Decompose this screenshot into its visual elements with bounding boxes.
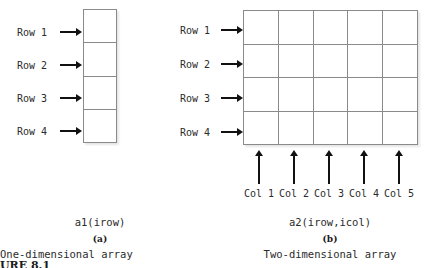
panel-b-col-label-1: Col 1 bbox=[243, 188, 275, 200]
panel-b-col-label-3: Col 3 bbox=[313, 188, 345, 200]
array-cell bbox=[279, 78, 313, 111]
panel-a-row-label-3: Row 3 bbox=[17, 93, 47, 105]
panel-b-row-label-1: Row 1 bbox=[180, 25, 210, 37]
panel-a-row-arrow-4 bbox=[60, 126, 82, 135]
panel-b-col-label-2: Col 2 bbox=[278, 188, 310, 200]
panel-b-col-label-4: Col 4 bbox=[348, 188, 380, 200]
array-cell bbox=[314, 11, 348, 44]
panel-b-row-arrow-4 bbox=[221, 127, 243, 136]
panel-b-col-arrow-2 bbox=[289, 150, 298, 184]
panel-b-col-arrow-4 bbox=[359, 150, 368, 184]
array-cell bbox=[314, 112, 348, 145]
panel-a-row-arrow-1 bbox=[60, 27, 82, 36]
array-cell bbox=[383, 112, 417, 145]
array-cell bbox=[383, 45, 417, 78]
array-cell bbox=[348, 11, 382, 44]
array-cell bbox=[244, 112, 278, 145]
panel-a-row-arrow-2 bbox=[60, 60, 82, 69]
panel-b-row-label-4: Row 4 bbox=[180, 127, 210, 139]
array-cell bbox=[348, 112, 382, 145]
panel-b-row-arrow-2 bbox=[221, 59, 243, 68]
array-cell bbox=[84, 110, 116, 142]
panel-b-col-arrow-1 bbox=[254, 150, 263, 184]
array-cell bbox=[314, 78, 348, 111]
array-comparison-figure: Row 1 Row 2 Row 3 Row 4 a1(irow) (a) One… bbox=[0, 0, 432, 268]
panel-b-col-arrow-5 bbox=[394, 150, 403, 184]
panel-b-title: Two-dimensional array bbox=[250, 248, 410, 261]
array-cell bbox=[244, 78, 278, 111]
array-cell bbox=[314, 45, 348, 78]
panel-a-row-label-4: Row 4 bbox=[17, 126, 47, 138]
panel-b-row-arrow-3 bbox=[221, 93, 243, 102]
array-cell bbox=[84, 43, 116, 75]
array-cell bbox=[84, 77, 116, 109]
panel-b-row-label-3: Row 3 bbox=[180, 93, 210, 105]
array-cell bbox=[383, 78, 417, 111]
panel-a-row-label-1: Row 1 bbox=[17, 27, 47, 39]
array-cell bbox=[279, 11, 313, 44]
array-cell bbox=[383, 11, 417, 44]
array-cell bbox=[348, 45, 382, 78]
panel-b-row-label-2: Row 2 bbox=[180, 59, 210, 71]
panel-a-row-arrow-3 bbox=[60, 93, 82, 102]
one-dimensional-array-grid bbox=[83, 9, 117, 143]
panel-b-col-label-5: Col 5 bbox=[383, 188, 415, 200]
array-cell bbox=[244, 45, 278, 78]
panel-a-notation: a1(irow) bbox=[30, 216, 170, 229]
array-cell bbox=[279, 45, 313, 78]
figure-number-label: URE 8.1 bbox=[0, 260, 90, 268]
panel-b-col-arrow-3 bbox=[324, 150, 333, 184]
two-dimensional-array-grid bbox=[243, 10, 418, 145]
panel-a-letter: (a) bbox=[30, 234, 170, 244]
panel-b-notation: a2(irow,icol) bbox=[250, 216, 410, 229]
array-cell bbox=[84, 10, 116, 42]
array-cell bbox=[279, 112, 313, 145]
panel-b-letter: (b) bbox=[250, 234, 410, 244]
panel-a-row-label-2: Row 2 bbox=[17, 60, 47, 72]
array-cell bbox=[348, 78, 382, 111]
panel-b-row-arrow-1 bbox=[221, 25, 243, 34]
array-cell bbox=[244, 11, 278, 44]
